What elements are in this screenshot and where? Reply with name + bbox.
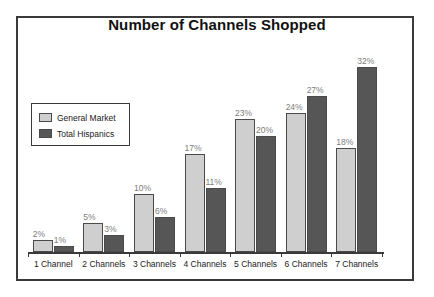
bar	[155, 217, 175, 252]
legend-item-total-hispanics: Total Hispanics	[39, 126, 129, 141]
bar	[286, 113, 306, 252]
x-axis-category-label: 6 Channels	[281, 259, 332, 269]
bar-group: 18%32%	[336, 44, 377, 252]
bar-value-label: 5%	[83, 212, 95, 222]
bar	[336, 148, 356, 252]
chart-title: Number of Channels Shopped	[0, 16, 434, 33]
x-axis-category-label: 4 Channels	[180, 259, 231, 269]
bar-value-label: 24%	[286, 102, 303, 112]
bar-group: 17%11%	[185, 44, 226, 252]
bar	[256, 136, 276, 252]
x-axis-tick	[79, 252, 80, 257]
legend-item-general-market: General Market	[39, 110, 129, 125]
chart-figure: Number of Channels Shopped 2%1%5%3%10%6%…	[0, 0, 434, 297]
bar-group: 5%3%	[83, 44, 124, 252]
bar	[134, 194, 154, 252]
x-axis-tick	[180, 252, 181, 257]
chart-legend: General Market Total Hispanics	[31, 103, 130, 146]
x-axis-tick	[129, 252, 130, 257]
x-axis-category-label: 1 Channel	[28, 259, 79, 269]
x-axis-tick	[28, 252, 29, 257]
bar-value-label: 18%	[336, 137, 353, 147]
bar-group: 24%27%	[286, 44, 327, 252]
x-axis-tick	[331, 252, 332, 257]
bar-value-label: 17%	[185, 143, 202, 153]
legend-swatch-total-hispanics	[39, 129, 52, 138]
bar-value-label: 27%	[307, 85, 324, 95]
bar	[235, 119, 255, 252]
legend-label-total-hispanics: Total Hispanics	[57, 129, 114, 139]
x-axis-tick	[382, 252, 383, 257]
bar-value-label: 3%	[104, 224, 116, 234]
x-axis-category-label: 3 Channels	[129, 259, 180, 269]
bar-value-label: 1%	[54, 235, 66, 245]
bar	[206, 188, 226, 252]
plot-area: 2%1%5%3%10%6%17%11%23%20%24%27%18%32%	[28, 44, 382, 252]
legend-swatch-general-market	[39, 113, 52, 122]
bar-value-label: 11%	[206, 177, 222, 187]
bar-value-label: 32%	[357, 56, 374, 66]
x-axis-category-label: 2 Channels	[79, 259, 130, 269]
bar-value-label: 20%	[256, 125, 273, 135]
x-axis-category-label: 7 Channels	[331, 259, 382, 269]
x-axis-tick	[230, 252, 231, 257]
bar	[104, 235, 124, 252]
bar	[357, 67, 377, 252]
bar-value-label: 23%	[235, 108, 252, 118]
x-axis-category-label: 5 Channels	[230, 259, 281, 269]
bar-value-label: 6%	[155, 206, 167, 216]
bar	[307, 96, 327, 252]
bar-group: 2%1%	[33, 44, 74, 252]
legend-label-general-market: General Market	[57, 113, 116, 123]
bar	[33, 240, 53, 252]
bar	[83, 223, 103, 252]
bar-value-label: 2%	[33, 229, 45, 239]
bar-group: 10%6%	[134, 44, 175, 252]
bar-group: 23%20%	[235, 44, 276, 252]
bar	[185, 154, 205, 252]
x-axis-tick	[281, 252, 282, 257]
bar-value-label: 10%	[134, 183, 151, 193]
